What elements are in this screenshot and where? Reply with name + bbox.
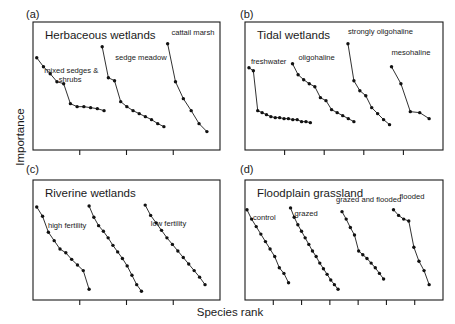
data-point [42, 65, 45, 68]
data-point [116, 250, 119, 253]
data-point [300, 230, 303, 233]
panel-c: Riverine wetlandshigh fertilitylow ferti… [33, 180, 220, 305]
panel-title: Riverine wetlands [45, 187, 136, 199]
data-point [96, 107, 99, 110]
data-point [314, 255, 317, 258]
data-point [130, 274, 133, 277]
series-label: mixed sedges & [44, 66, 98, 75]
data-point [192, 269, 195, 272]
data-point [352, 79, 355, 82]
series-curve [144, 203, 207, 286]
data-point [35, 205, 38, 208]
series-label: grazed and flooded [336, 195, 401, 204]
data-point [144, 203, 147, 206]
data-point [259, 232, 262, 235]
series-curve [87, 204, 143, 293]
figure-root: (a) (b) (c) (d) Importance Species rank … [0, 0, 455, 324]
data-point [273, 255, 276, 258]
series-line [348, 44, 390, 125]
data-point [260, 111, 263, 114]
series-line [89, 206, 141, 291]
data-point [247, 66, 250, 69]
data-point [274, 116, 277, 119]
data-point [135, 283, 138, 286]
data-point [102, 109, 105, 112]
panel-title: Herbaceous wetlands [45, 29, 156, 41]
data-point [311, 249, 314, 252]
data-point [107, 76, 110, 79]
series-label: cattail marsh [171, 28, 214, 37]
data-point [330, 108, 333, 111]
data-point [156, 122, 159, 125]
data-point [322, 267, 325, 270]
data-point [264, 240, 267, 243]
data-point [106, 236, 109, 239]
data-point [308, 82, 311, 85]
data-point [296, 223, 299, 226]
data-point [369, 261, 372, 264]
data-point [119, 100, 122, 103]
series-curve [291, 62, 356, 123]
data-point [399, 82, 402, 85]
series-line [342, 212, 384, 279]
data-point [378, 272, 381, 275]
data-point [269, 115, 272, 118]
data-point [87, 204, 90, 207]
data-point [346, 42, 349, 45]
data-point [374, 266, 377, 269]
data-point [97, 224, 100, 227]
panel-d: Floodplain grasslandcontrolgrazedgrazed … [245, 180, 443, 305]
data-point [304, 120, 307, 123]
series-label: freshwater [251, 57, 287, 66]
data-point [409, 110, 412, 113]
series-label: grazed [295, 209, 318, 218]
data-point [187, 262, 190, 265]
data-point [92, 216, 95, 219]
series-label: oligohaline [298, 53, 334, 62]
data-point [150, 118, 153, 121]
series-label: sedge meadow [115, 53, 167, 62]
data-point [255, 225, 258, 228]
data-point [256, 109, 259, 112]
data-point [422, 269, 425, 272]
data-point [278, 116, 281, 119]
data-point [35, 56, 38, 59]
series-line [394, 210, 430, 285]
data-point [295, 118, 298, 121]
series-label: strongly oligohaline [348, 27, 413, 36]
data-point [382, 118, 385, 121]
series-line [249, 68, 310, 123]
data-point [166, 42, 169, 45]
panel-title: Tidal wetlands [257, 29, 330, 41]
data-point [171, 243, 174, 246]
data-point [113, 79, 116, 82]
data-point [333, 283, 336, 286]
data-point [427, 283, 430, 286]
series-label: high fertility [48, 221, 87, 230]
data-point [265, 113, 268, 116]
data-point [303, 236, 306, 239]
data-point [388, 123, 391, 126]
data-point [309, 121, 312, 124]
data-point [52, 239, 55, 242]
data-point [291, 62, 294, 65]
data-point [296, 73, 299, 76]
data-point [318, 261, 321, 264]
data-point [412, 246, 415, 249]
data-point [347, 117, 350, 120]
series-line [145, 205, 205, 285]
data-point [307, 243, 310, 246]
data-point [100, 45, 103, 48]
data-point [250, 217, 253, 220]
data-point [160, 229, 163, 232]
data-point [341, 114, 344, 117]
data-point [41, 215, 44, 218]
data-point [329, 278, 332, 281]
data-point [154, 221, 157, 224]
data-point [402, 217, 405, 220]
data-point [336, 288, 339, 291]
data-point [302, 78, 305, 81]
data-point [125, 264, 128, 267]
data-point [287, 281, 290, 284]
data-point [205, 130, 208, 133]
